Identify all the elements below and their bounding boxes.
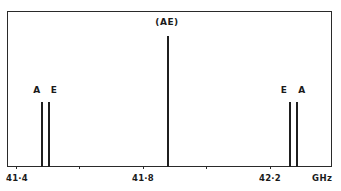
x-tick-41-6 [79, 166, 80, 169]
x-axis-unit-label: GHz [312, 173, 333, 183]
peak-label-ae: (AE) [155, 17, 178, 27]
spectral-line-ae-center [167, 36, 169, 167]
x-tick-42-2 [270, 166, 271, 169]
x-tick-label-41-4: 41·4 [6, 173, 28, 183]
peak-label-a-right: A [298, 85, 305, 95]
x-tick-label-41-8: 41·8 [132, 173, 154, 183]
spectral-line-a-left [41, 102, 43, 167]
peak-label-a-left: A [33, 85, 40, 95]
x-tick-41-8 [143, 166, 144, 169]
spectral-line-a-right [296, 102, 298, 167]
x-tick-42-0 [206, 166, 207, 169]
peak-label-e-right: E [281, 85, 288, 95]
spectral-line-e-left [48, 102, 50, 167]
spectral-line-e-right [289, 102, 291, 167]
peak-label-e-left: E [51, 85, 58, 95]
x-tick-label-42-2: 42·2 [259, 173, 281, 183]
x-tick-41-4 [16, 166, 17, 169]
